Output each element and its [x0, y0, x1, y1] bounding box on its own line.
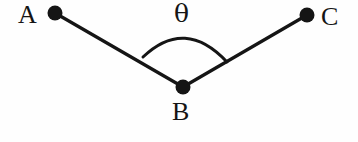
point-c-label: C [321, 4, 338, 30]
point-a-label: A [18, 2, 37, 28]
segment-bc [183, 15, 307, 87]
point-c-dot [300, 8, 315, 23]
angle-arc [143, 38, 227, 62]
segment-ba [55, 13, 183, 87]
angle-diagram-figure: A B C θ [0, 0, 358, 142]
point-b-label: B [172, 99, 189, 125]
theta-angle-label: θ [174, 1, 189, 26]
point-a-dot [48, 6, 63, 21]
point-b-dot [176, 80, 191, 95]
